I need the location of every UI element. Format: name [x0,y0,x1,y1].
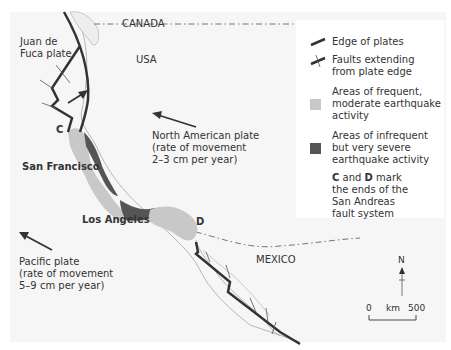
label-north-american-1: North American plate [152,130,259,142]
label-juan-de-fuca-1: Juan de [20,36,57,48]
label-point-c: C [56,124,63,136]
label-canada: CANADA [122,18,165,30]
label-los-angeles: Los Angeles [82,214,150,226]
plate-edge-icon [310,36,326,48]
label-mexico: MEXICO [256,254,296,266]
label-north-american-3: 2–3 cm per year) [152,154,237,166]
label-san-francisco: San Francisco [22,161,100,173]
frequent-swatch [310,99,322,111]
label-juan-de-fuca-2: Fuca plate [20,48,72,60]
label-usa: USA [136,54,157,66]
scale-zero: 0 [366,302,372,314]
label-pacific-3: 5–9 cm per year) [19,280,104,292]
label-pacific-1: Pacific plate [19,256,79,268]
label-north-american-2: (rate of movement [152,142,246,154]
scale-max: 500 [408,302,425,314]
compass-north-label: N [398,254,405,266]
infrequent-swatch [310,143,322,155]
legend: Edge of plates Faults extending from pla… [296,20,444,218]
label-pacific-2: (rate of movement [19,268,113,280]
label-point-d: D [196,216,204,228]
fault-icon [310,54,326,68]
scale-unit: km [386,302,400,314]
